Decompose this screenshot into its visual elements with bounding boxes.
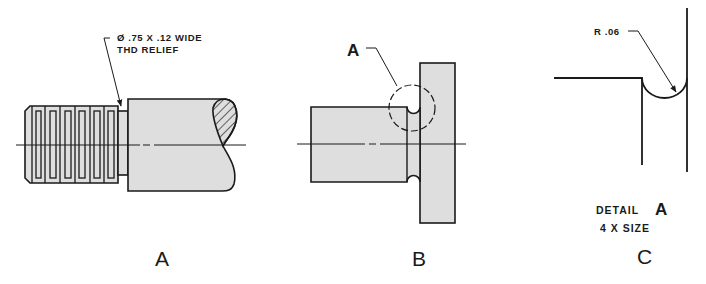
flange bbox=[420, 63, 455, 223]
view-c: R .06 DETAIL A 4 X SIZE C bbox=[554, 8, 687, 268]
relief-note-line1: Ø .75 X .12 WIDE bbox=[117, 32, 202, 43]
relief-note-line2: THD RELIEF bbox=[117, 44, 179, 55]
thread-relief bbox=[118, 111, 128, 175]
view-label-c: C bbox=[637, 245, 652, 268]
view-b: A B bbox=[297, 41, 466, 270]
radius-note: R .06 bbox=[594, 26, 620, 37]
view-a: Ø .75 X .12 WIDE THD RELIEF A bbox=[16, 32, 246, 270]
detail-title: DETAIL bbox=[596, 204, 639, 216]
detail-profile bbox=[554, 78, 687, 98]
detail-scale: 4 X SIZE bbox=[600, 222, 650, 234]
detail-leader bbox=[366, 48, 397, 86]
view-label-b: B bbox=[412, 247, 426, 270]
view-label-a: A bbox=[155, 247, 169, 270]
detail-callout: A bbox=[347, 41, 359, 60]
radius-leader bbox=[628, 31, 676, 92]
technical-drawing: Ø .75 X .12 WIDE THD RELIEF A A B R .06 … bbox=[0, 0, 706, 284]
detail-letter: A bbox=[655, 200, 667, 219]
